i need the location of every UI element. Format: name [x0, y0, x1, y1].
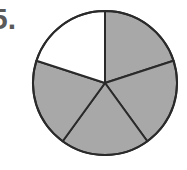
pie-slices [33, 11, 177, 155]
fraction-circle [0, 0, 187, 170]
